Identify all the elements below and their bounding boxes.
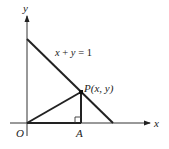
point-p-label: P(x, y) [83, 82, 114, 95]
point-a-label: A [75, 127, 83, 139]
segment-op [27, 92, 81, 123]
y-axis-label: y [22, 2, 28, 14]
x-axis-label: x [153, 117, 159, 129]
line-equation-label: x + y = 1 [54, 47, 92, 58]
origin-label: O [16, 127, 24, 139]
point-p-dot [79, 90, 83, 94]
diagram-canvas: y x O A P(x, y) x + y = 1 [0, 0, 169, 149]
